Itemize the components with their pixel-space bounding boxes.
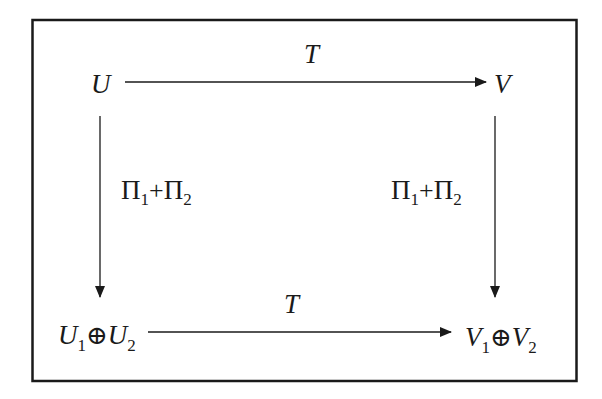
subscript: 2 xyxy=(183,190,192,209)
node-bottom-right: V1⊕V2 xyxy=(465,322,537,357)
subscript: 2 xyxy=(528,338,537,357)
subscript: 1 xyxy=(482,338,491,357)
pi-symbol: Π xyxy=(391,175,411,205)
pi-symbol: Π xyxy=(434,175,454,205)
space-symbol: U xyxy=(108,320,129,350)
arrow-right-label: Π1+Π2 xyxy=(391,175,462,209)
plus-operator: + xyxy=(419,176,434,205)
subscript: 1 xyxy=(141,190,150,209)
subscript: 1 xyxy=(78,336,87,355)
node-top-left: U xyxy=(91,69,112,99)
space-symbol: U xyxy=(58,320,79,350)
plus-operator: + xyxy=(149,176,164,205)
node-bottom-left: U1⊕U2 xyxy=(58,320,136,355)
arrow-bottom-label: T xyxy=(284,289,301,319)
commutative-diagram: U V T T Π1+Π2 Π1+Π2 U1⊕U2 V1⊕V2 xyxy=(0,0,602,399)
node-top-right: V xyxy=(494,69,514,99)
direct-sum-operator: ⊕ xyxy=(86,321,108,350)
subscript: 1 xyxy=(411,190,420,209)
subscript: 2 xyxy=(127,336,136,355)
arrow-top-label: T xyxy=(304,39,321,69)
pi-symbol: Π xyxy=(164,175,184,205)
pi-symbol: Π xyxy=(121,175,141,205)
direct-sum-operator: ⊕ xyxy=(490,323,512,352)
arrow-left-label: Π1+Π2 xyxy=(121,175,192,209)
subscript: 2 xyxy=(453,190,462,209)
